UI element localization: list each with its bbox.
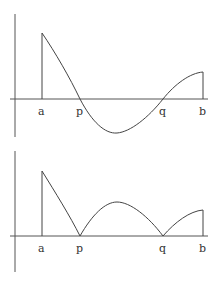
bottom-label-b: b (199, 242, 206, 255)
bottom-label-q: q (159, 242, 166, 255)
top-function-curve (42, 33, 203, 133)
top-label-p: p (76, 105, 83, 118)
top-label-a: a (38, 105, 45, 118)
bottom-label-p: p (76, 242, 83, 255)
top-label-q: q (159, 105, 166, 118)
top-label-b: b (199, 105, 206, 118)
bottom-label-a: a (38, 242, 45, 255)
diagram-canvas: a p q b a p q b (0, 0, 217, 286)
bottom-absolute-curve (42, 171, 203, 236)
bottom-graph: a p q b (10, 151, 208, 272)
top-graph: a p q b (10, 14, 208, 137)
